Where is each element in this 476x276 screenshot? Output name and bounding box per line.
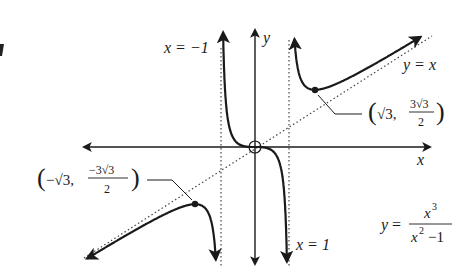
function-equation-label: y = x 3 x 2 −1	[379, 201, 452, 245]
svg-text:x: x	[410, 229, 418, 245]
asymptote-left-label: x = −1	[163, 39, 209, 56]
svg-text:2: 2	[104, 182, 110, 196]
svg-text:x: x	[423, 205, 431, 221]
y-axis-label: y	[261, 29, 271, 47]
svg-text:2: 2	[418, 115, 424, 129]
leader-line-local-max	[147, 180, 192, 200]
local-min-point	[312, 87, 318, 93]
curve-branch-right	[295, 37, 421, 90]
local-max-point	[192, 201, 198, 207]
svg-text:y: y	[379, 216, 389, 234]
curve-branch-left	[87, 204, 216, 259]
asymptote-right-label: x = 1	[295, 236, 330, 253]
svg-text:(: (	[37, 163, 46, 192]
svg-text:): )	[131, 163, 140, 192]
svg-text:(: (	[368, 97, 377, 126]
svg-text:): )	[436, 97, 445, 126]
svg-text:3: 3	[432, 201, 437, 212]
svg-text:−√3,: −√3,	[46, 172, 74, 188]
svg-text:√3,: √3,	[377, 106, 396, 122]
svg-text:=: =	[392, 216, 401, 233]
svg-text:2: 2	[419, 225, 424, 236]
x-axis-label: x	[416, 151, 424, 168]
svg-text:−3√3: −3√3	[89, 163, 114, 177]
oblique-asymptote-label: y = x	[401, 56, 436, 74]
local-min-label: ( √3, 3√3 2 )	[368, 97, 445, 129]
svg-text:−1: −1	[428, 229, 444, 245]
cropped-fragment	[0, 44, 4, 56]
rational-function-graph: x = −1 y x y = x x = 1 ( √3, 3√3 2 ) ( −…	[0, 0, 476, 276]
svg-text:3√3: 3√3	[410, 97, 429, 111]
local-max-label: ( −√3, −3√3 2 )	[37, 163, 140, 196]
